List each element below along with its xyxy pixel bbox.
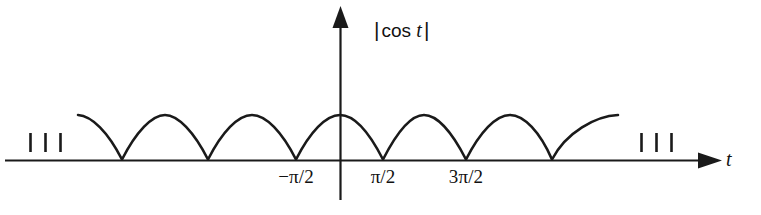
continuation-marks-left	[31, 133, 61, 152]
abs-cos-curve	[78, 115, 618, 160]
x-axis-arrowhead-icon	[698, 153, 722, 169]
x-tick-label-3pi-over-2: 3π/2	[449, 166, 483, 188]
x-axis-label: t	[726, 148, 732, 171]
y-axis-label: |cos t|	[372, 18, 431, 42]
math-figure-abs-cos: |cos t| t −π/2 π/2 3π/2	[0, 0, 761, 215]
y-axis-arrowhead-icon	[333, 6, 349, 28]
y-axis-label-close-bar: |	[422, 18, 431, 41]
continuation-marks-right	[642, 133, 672, 152]
x-tick-label-pi-over-2: π/2	[371, 166, 396, 188]
x-axis-label-variable: t	[726, 148, 732, 170]
x-tick-label-neg-pi-over-2: −π/2	[278, 166, 314, 188]
y-axis-label-function: cos	[381, 20, 411, 41]
